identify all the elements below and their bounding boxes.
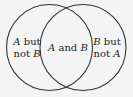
region-b-only-label: B but not A: [92, 36, 122, 60]
region-a-only-label: A but not B: [13, 36, 41, 60]
region-b-only-line2: not A: [92, 48, 122, 60]
region-intersection-label: A and B: [48, 42, 86, 54]
region-b-only-line1: B but: [92, 36, 122, 48]
region-a-only-line1: A but: [13, 36, 41, 48]
region-a-only-line2: not B: [13, 48, 41, 60]
region-intersection-line1: A and B: [48, 42, 86, 54]
